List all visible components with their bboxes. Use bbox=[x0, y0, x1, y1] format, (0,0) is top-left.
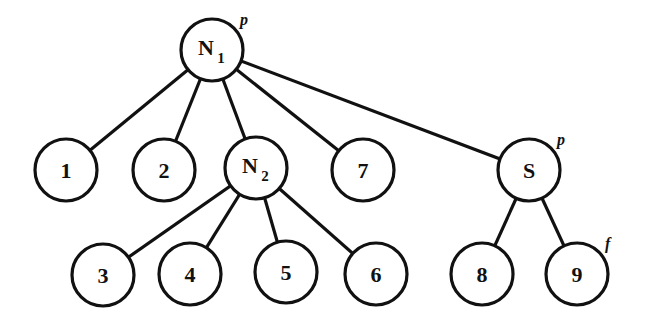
node-label: 1 bbox=[61, 158, 72, 183]
node-label: 4 bbox=[185, 262, 196, 287]
node-1: 1 bbox=[35, 139, 97, 201]
node-subscript: 1 bbox=[217, 50, 225, 66]
node-label: 3 bbox=[98, 263, 109, 288]
tree-svg: N1p12N27Sp345689f bbox=[0, 0, 646, 329]
node-7: 7 bbox=[332, 139, 394, 201]
node-9: 9f bbox=[546, 235, 612, 305]
node-S: Sp bbox=[498, 131, 565, 201]
node-label: N bbox=[198, 35, 214, 60]
node-mark-p: p bbox=[238, 11, 248, 29]
node-label: 5 bbox=[281, 260, 292, 285]
node-label: 8 bbox=[477, 262, 488, 287]
node-N2: N2 bbox=[225, 137, 287, 199]
node-subscript: 2 bbox=[261, 168, 269, 184]
nodes-layer: N1p12N27Sp345689f bbox=[35, 11, 612, 306]
node-label: 2 bbox=[159, 158, 170, 183]
node-5: 5 bbox=[255, 241, 317, 303]
node-2: 2 bbox=[133, 139, 195, 201]
node-3: 3 bbox=[72, 244, 134, 306]
node-label: 9 bbox=[572, 262, 583, 287]
node-label: 7 bbox=[358, 158, 369, 183]
node-mark-f: f bbox=[605, 235, 612, 253]
tree-diagram: N1p12N27Sp345689f bbox=[0, 0, 646, 329]
node-label: S bbox=[523, 158, 535, 183]
node-label: N bbox=[242, 153, 258, 178]
node-8: 8 bbox=[451, 243, 513, 305]
node-mark-p: p bbox=[555, 131, 565, 149]
node-4: 4 bbox=[159, 243, 221, 305]
node-label: 6 bbox=[371, 262, 382, 287]
node-6: 6 bbox=[345, 243, 407, 305]
